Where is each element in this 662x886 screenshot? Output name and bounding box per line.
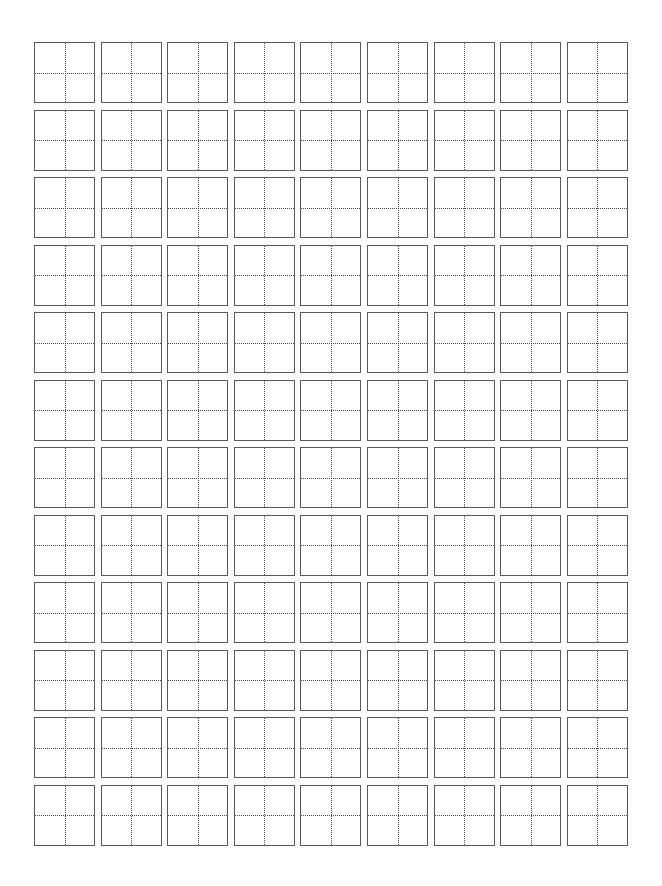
- vertical-guide-line: [131, 111, 132, 170]
- grid-cell: [434, 380, 495, 441]
- vertical-guide-line: [398, 786, 399, 845]
- vertical-guide-line: [597, 651, 598, 710]
- vertical-guide-line: [264, 786, 265, 845]
- vertical-guide-line: [131, 43, 132, 102]
- grid-cell: [234, 582, 295, 643]
- grid-cell: [567, 447, 628, 508]
- grid-cell: [300, 177, 361, 238]
- grid-cell: [234, 650, 295, 711]
- grid-cell: [500, 582, 561, 643]
- grid-cell: [500, 245, 561, 306]
- grid-cell: [101, 785, 162, 846]
- vertical-guide-line: [198, 516, 199, 575]
- grid-cell: [300, 650, 361, 711]
- grid-cell: [167, 650, 228, 711]
- vertical-guide-line: [464, 381, 465, 440]
- vertical-guide-line: [597, 381, 598, 440]
- vertical-guide-line: [398, 583, 399, 642]
- vertical-guide-line: [264, 178, 265, 237]
- grid-cell: [234, 177, 295, 238]
- grid-cell: [234, 42, 295, 103]
- grid-cell: [167, 312, 228, 373]
- grid-cell: [101, 110, 162, 171]
- vertical-guide-line: [264, 651, 265, 710]
- grid-cell: [101, 650, 162, 711]
- grid-cell: [434, 312, 495, 373]
- grid-cell: [367, 42, 428, 103]
- vertical-guide-line: [464, 246, 465, 305]
- vertical-guide-line: [398, 111, 399, 170]
- vertical-guide-line: [331, 786, 332, 845]
- vertical-guide-line: [464, 583, 465, 642]
- vertical-guide-line: [131, 178, 132, 237]
- vertical-guide-line: [264, 718, 265, 777]
- vertical-guide-line: [198, 583, 199, 642]
- vertical-guide-line: [531, 178, 532, 237]
- vertical-guide-line: [198, 651, 199, 710]
- vertical-guide-line: [531, 718, 532, 777]
- grid-cell: [300, 515, 361, 576]
- vertical-guide-line: [331, 246, 332, 305]
- vertical-guide-line: [531, 246, 532, 305]
- grid-cell: [500, 177, 561, 238]
- vertical-guide-line: [131, 381, 132, 440]
- vertical-guide-line: [531, 651, 532, 710]
- vertical-guide-line: [597, 786, 598, 845]
- grid-cell: [567, 380, 628, 441]
- grid-cell: [234, 785, 295, 846]
- grid-cell: [567, 42, 628, 103]
- grid-cell: [434, 717, 495, 778]
- vertical-guide-line: [65, 516, 66, 575]
- grid-cell: [167, 717, 228, 778]
- grid-cell: [367, 717, 428, 778]
- grid-cell: [101, 42, 162, 103]
- vertical-guide-line: [131, 516, 132, 575]
- grid-cell: [434, 245, 495, 306]
- grid-cell: [567, 582, 628, 643]
- grid-cell: [367, 785, 428, 846]
- grid-cell: [101, 447, 162, 508]
- grid-cell: [234, 515, 295, 576]
- vertical-guide-line: [65, 178, 66, 237]
- vertical-guide-line: [331, 718, 332, 777]
- vertical-guide-line: [398, 448, 399, 507]
- grid-cell: [434, 110, 495, 171]
- vertical-guide-line: [264, 43, 265, 102]
- vertical-guide-line: [131, 786, 132, 845]
- vertical-guide-line: [398, 651, 399, 710]
- vertical-guide-line: [597, 111, 598, 170]
- grid-cell: [500, 785, 561, 846]
- vertical-guide-line: [597, 516, 598, 575]
- grid-cell: [101, 312, 162, 373]
- vertical-guide-line: [531, 786, 532, 845]
- vertical-guide-line: [65, 651, 66, 710]
- vertical-guide-line: [398, 381, 399, 440]
- vertical-guide-line: [597, 43, 598, 102]
- grid-cell: [167, 110, 228, 171]
- grid-cell: [300, 447, 361, 508]
- vertical-guide-line: [131, 651, 132, 710]
- grid-cell: [34, 110, 95, 171]
- vertical-guide-line: [597, 718, 598, 777]
- grid-cell: [367, 380, 428, 441]
- vertical-guide-line: [65, 246, 66, 305]
- vertical-guide-line: [264, 516, 265, 575]
- grid-cell: [300, 245, 361, 306]
- vertical-guide-line: [464, 448, 465, 507]
- grid-cell: [300, 785, 361, 846]
- vertical-guide-line: [65, 583, 66, 642]
- grid-cell: [234, 447, 295, 508]
- vertical-guide-line: [65, 313, 66, 372]
- grid-cell: [567, 177, 628, 238]
- vertical-guide-line: [198, 111, 199, 170]
- grid-cell: [101, 177, 162, 238]
- grid-cell: [300, 582, 361, 643]
- vertical-guide-line: [331, 178, 332, 237]
- grid-cell: [167, 245, 228, 306]
- grid-cell: [500, 312, 561, 373]
- vertical-guide-line: [531, 43, 532, 102]
- vertical-guide-line: [531, 448, 532, 507]
- vertical-guide-line: [398, 178, 399, 237]
- grid-cell: [500, 447, 561, 508]
- grid-cell: [167, 515, 228, 576]
